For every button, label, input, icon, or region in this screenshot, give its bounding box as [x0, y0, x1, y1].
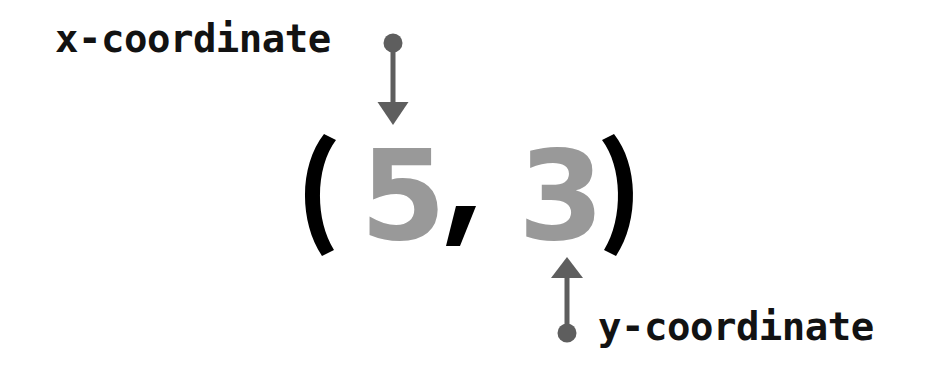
dot-marker-icon — [558, 324, 577, 343]
x-value-digit: 5 — [360, 124, 446, 262]
x-coordinate-label: x-coordinate — [55, 17, 331, 61]
y-coordinate-arrow — [548, 254, 594, 346]
arrow-up-icon — [551, 257, 583, 278]
x-coordinate-arrow — [376, 30, 416, 130]
diagram-canvas: x-coordinate 5 3 y-coordinate (5, 3) — [0, 0, 940, 372]
arrow-shaft — [565, 276, 570, 330]
comma-separator-glyph — [446, 206, 476, 246]
close-paren-glyph — [602, 134, 633, 256]
coordinate-pair-graphic: 5 3 — [300, 122, 650, 262]
y-value-digit: 3 — [518, 124, 604, 262]
y-coordinate-label: y-coordinate — [598, 305, 874, 349]
arrow-shaft — [391, 43, 396, 110]
coordinate-pair-text: (5, 3) — [0, 0, 1, 1]
open-paren-glyph — [305, 134, 336, 256]
